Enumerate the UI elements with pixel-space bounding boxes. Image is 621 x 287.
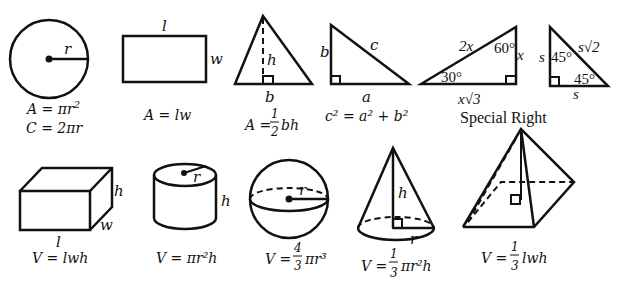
svg-text:2: 2	[270, 125, 279, 139]
svg-text:4: 4	[293, 241, 302, 255]
circle-circumference-formula: C = 2πr	[26, 120, 83, 136]
cone-r-label: r	[410, 230, 418, 248]
svg-text:πr³: πr³	[304, 251, 327, 267]
label-60deg: 60°	[494, 40, 515, 56]
sphere-figure: r V = 4 3 πr³	[250, 160, 328, 273]
label-x: x	[516, 47, 524, 63]
label-s-root2: s√2	[578, 39, 600, 55]
svg-text:3: 3	[511, 259, 519, 273]
prism-l-label: l	[56, 233, 61, 251]
prism-w-label: w	[100, 216, 113, 234]
rectangular-prism-figure: h w l V = lwh	[20, 168, 124, 266]
cylinder-figure: r h V = πr²h	[154, 164, 231, 266]
triangle-45-45-90: s 45° s√2 45° s	[539, 27, 608, 102]
svg-text:V =: V =	[481, 250, 507, 266]
rect-area-formula: A = lw	[142, 107, 191, 123]
cylinder-r-label: r	[193, 168, 201, 186]
cone-volume-formula: V = 1 3 πr²h	[361, 247, 432, 280]
svg-text:lwh: lwh	[522, 250, 547, 266]
cone-figure: h r V = 1 3 πr²h	[358, 148, 434, 280]
svg-text:πr²h: πr²h	[400, 258, 432, 274]
circle-radius-label: r	[64, 40, 72, 58]
label-45deg-top: 45°	[551, 49, 572, 65]
circle-figure: r A = πr2 C = 2πr	[10, 20, 88, 136]
prism-h-label: h	[114, 182, 124, 200]
svg-text:1: 1	[390, 247, 398, 261]
svg-text:1: 1	[511, 240, 519, 254]
rect-width-label: w	[210, 50, 223, 68]
sphere-r-label: r	[299, 181, 307, 199]
triangle-height-label: h	[267, 51, 277, 69]
right-triangle-figure: b c a c² = a² + b²	[320, 25, 409, 124]
svg-text:3: 3	[390, 266, 398, 280]
sphere-volume-formula: V = 4 3 πr³	[265, 241, 327, 273]
label-30deg: 30°	[441, 69, 462, 85]
triangle-30-60-90: 2x 60° x 30° x√3	[421, 27, 524, 107]
circle-area-formula: A = πr2	[25, 99, 80, 117]
label-2x: 2x	[459, 38, 474, 54]
triangle-base-label: b	[265, 88, 275, 106]
label-45deg-bottom: 45°	[574, 71, 595, 87]
triangle-figure: h b A = 1 2 bh	[235, 16, 312, 139]
special-right-caption: Special Right	[460, 109, 547, 127]
right-tri-b-label: b	[320, 43, 330, 61]
pyramid-volume-formula: V = 1 3 lwh	[481, 240, 547, 273]
label-s-left: s	[539, 49, 545, 65]
cylinder-h-label: h	[221, 192, 231, 210]
svg-text:A =: A =	[243, 117, 271, 133]
right-tri-c-label: c	[370, 36, 379, 54]
pyramid-figure: V = 1 3 lwh	[463, 129, 574, 273]
formula-sheet: r A = πr2 C = 2πr l w A = lw h b A = 1 2…	[0, 0, 621, 287]
svg-text:bh: bh	[281, 117, 299, 133]
pythagorean-formula: c² = a² + b²	[325, 108, 409, 124]
prism-volume-formula: V = lwh	[32, 250, 88, 266]
label-s-bottom: s	[573, 86, 579, 102]
cone-h-label: h	[398, 184, 408, 202]
triangle-area-formula: A = 1 2 bh	[243, 107, 299, 139]
right-tri-a-label: a	[362, 88, 371, 106]
rectangle-figure: l w A = lw	[123, 17, 223, 123]
label-x-root3: x√3	[457, 91, 480, 107]
svg-text:V =: V =	[265, 251, 291, 267]
cylinder-volume-formula: V = πr²h	[156, 250, 217, 266]
svg-text:3: 3	[294, 259, 302, 273]
svg-text:V =: V =	[361, 258, 387, 274]
rect-length-label: l	[162, 17, 167, 35]
svg-text:1: 1	[271, 107, 279, 121]
